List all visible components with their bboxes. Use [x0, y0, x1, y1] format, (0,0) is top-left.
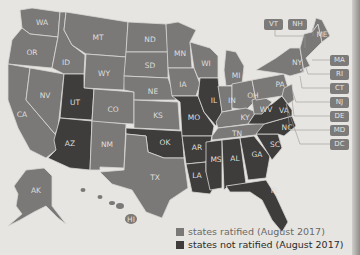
label-ca: CA [17, 110, 28, 119]
legend-label-not-ratified: states not ratified (August 2017) [188, 239, 343, 250]
label-ia: IA [179, 80, 187, 89]
label-tx: TX [149, 173, 160, 182]
callout-ma: MA [330, 55, 349, 66]
label-oh: OH [247, 91, 259, 100]
legend-swatch-ratified [176, 228, 184, 236]
book-spine-shadow [352, 0, 360, 255]
label-in: IN [228, 96, 236, 105]
label-wi: WI [201, 59, 211, 68]
callout-nj: NJ [330, 97, 349, 108]
label-co: CO [107, 105, 118, 114]
label-ky: KY [240, 113, 250, 122]
label-ak: AK [31, 186, 42, 195]
legend-item-ratified: states ratified (August 2017) [176, 225, 343, 238]
map-legend: states ratified (August 2017) states not… [176, 225, 343, 251]
label-id: ID [62, 58, 70, 67]
label-la: LA [192, 171, 202, 180]
label-ny: NY [292, 58, 303, 67]
label-ar: AR [192, 143, 202, 152]
callout-dc: DC [330, 139, 349, 150]
label-mi: MI [232, 71, 241, 80]
label-hi: HI [127, 215, 135, 224]
label-sd: SD [145, 61, 156, 70]
label-nv: NV [40, 91, 52, 100]
label-mo: MO [188, 113, 200, 122]
label-ms: MS [210, 155, 221, 164]
label-ok: OK [160, 138, 172, 147]
legend-item-not-ratified: states not ratified (August 2017) [176, 238, 343, 251]
label-mt: MT [92, 33, 103, 42]
callout-ct: CT [330, 83, 349, 94]
label-wv: WV [260, 105, 273, 114]
label-mn: MN [174, 49, 186, 58]
callout-de: DE [330, 111, 349, 122]
us-map: WA OR CA NV ID MT WY UT CO AZ NM ND SD N… [0, 0, 360, 255]
label-az: AZ [65, 139, 75, 148]
label-pa: PA [275, 80, 285, 89]
state-mi[interactable] [224, 50, 244, 86]
callout-md: MD [330, 125, 349, 136]
label-il: IL [211, 96, 218, 105]
label-nc: NC [282, 123, 293, 132]
label-me: ME [316, 30, 327, 39]
label-fl: FL [271, 186, 280, 195]
label-nm: NM [101, 140, 113, 149]
callout-ri: RI [330, 69, 349, 80]
legend-label-ratified: states ratified (August 2017) [188, 226, 325, 237]
legend-swatch-not-ratified [176, 241, 184, 249]
label-or: OR [26, 48, 37, 57]
callout-nh: NH [288, 19, 307, 30]
state-ms[interactable] [206, 140, 222, 190]
state-ak[interactable] [8, 168, 66, 226]
label-wy: WY [98, 69, 110, 78]
label-wa: WA [36, 18, 49, 27]
label-al: AL [230, 154, 240, 163]
callout-vt: VT [264, 19, 283, 30]
label-ut: UT [70, 98, 80, 107]
label-ks: KS [153, 111, 163, 120]
label-tn: TN [231, 129, 242, 138]
label-ga: GA [252, 150, 264, 159]
label-ne: NE [148, 87, 159, 96]
label-nd: ND [144, 35, 156, 44]
label-sc: SC [270, 140, 280, 149]
